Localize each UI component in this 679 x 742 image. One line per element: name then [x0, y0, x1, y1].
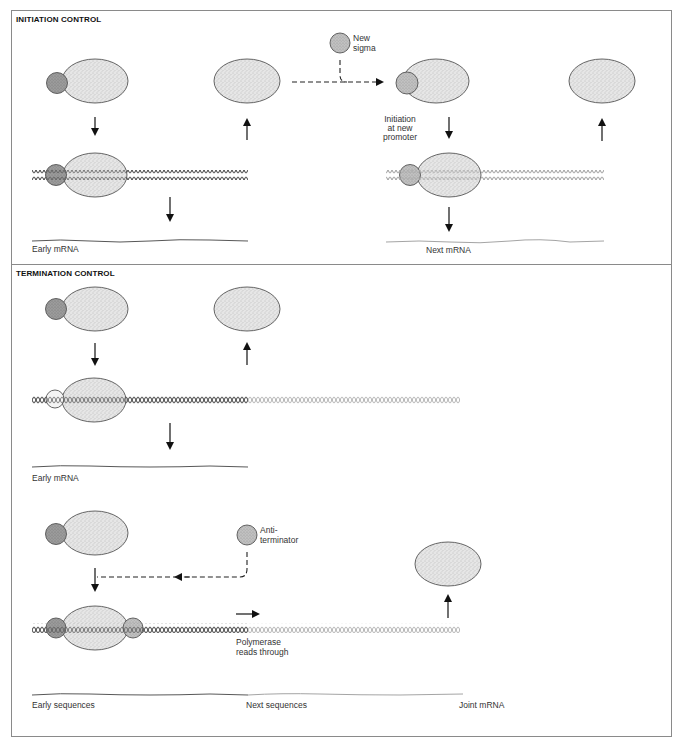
holoenzyme	[47, 59, 129, 103]
dna-helix-overlay	[386, 170, 604, 180]
dna-helix-next	[248, 623, 460, 633]
core-enzyme-icon	[214, 287, 280, 331]
core-enzyme-icon	[415, 542, 481, 586]
early-sequences-label: Early sequences	[32, 700, 95, 710]
next-sequences-label: Next sequences	[246, 700, 307, 710]
core-enzyme-icon	[62, 287, 128, 331]
new-sigma-label-line1: New	[353, 33, 371, 43]
sigma-factor-icon	[46, 299, 67, 320]
new-sigma-label-line2: sigma	[353, 43, 376, 53]
early-mrna-strand	[32, 466, 248, 467]
dashed-connector	[340, 60, 347, 82]
readthrough-label-line1: Polymerase	[236, 637, 281, 647]
core-enzyme-icon	[569, 59, 635, 103]
core-enzyme-icon	[62, 511, 128, 555]
sigma-factor-icon	[46, 524, 67, 545]
dna-helix-overlay	[32, 170, 248, 180]
initiation-control-panel: INITIATION CONTROL Early mRNA New sigma …	[16, 15, 635, 255]
termination-control-panel: TERMINATION CONTROL Early mRNA Anti- ter…	[16, 269, 505, 710]
sigma-factor-icon	[47, 73, 68, 94]
new-sigma-icon	[330, 33, 350, 53]
joint-mrna-label: Joint mRNA	[459, 700, 505, 710]
next-sequences-strand	[248, 694, 463, 695]
dna-helix-overlay	[32, 395, 248, 405]
early-sequences-strand	[32, 694, 248, 695]
next-mrna-strand	[386, 240, 604, 243]
dashed-connector	[183, 552, 247, 577]
core-enzyme-icon	[214, 59, 280, 103]
dna-helix-next	[248, 395, 460, 405]
early-mrna-label: Early mRNA	[32, 473, 79, 483]
next-mrna-label: Next mRNA	[426, 245, 471, 255]
core-enzyme-icon	[62, 59, 128, 103]
dna-helix-overlay	[32, 623, 248, 633]
panel-title: INITIATION CONTROL	[16, 15, 101, 24]
initiation-label-line3: promoter	[383, 132, 417, 142]
transcription-control-diagram: INITIATION CONTROL Early mRNA New sigma …	[0, 0, 679, 742]
early-mrna-strand	[32, 240, 248, 242]
new-sigma-icon	[396, 72, 418, 94]
early-mrna-label: Early mRNA	[32, 244, 79, 254]
antiterminator-icon	[237, 525, 257, 545]
antiterminator-label-line1: Anti-	[260, 525, 278, 535]
antiterminator-label-line2: terminator	[260, 535, 298, 545]
panel-title: TERMINATION CONTROL	[16, 269, 115, 278]
readthrough-label-line2: reads through	[236, 647, 289, 657]
